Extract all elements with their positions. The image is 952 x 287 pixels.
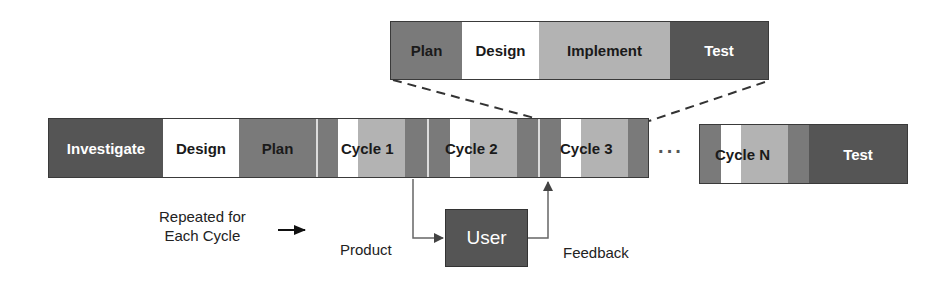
feedback-label: Feedback [563,243,629,262]
zoom-dashed-right [649,82,765,121]
zoom-dashed-left [393,80,538,119]
repeat-note-line2: Each Cycle [159,226,246,245]
repeat-note: Repeated for Each Cycle [159,207,246,245]
product-label: Product [340,240,392,259]
feedback-arrow [528,182,548,238]
product-arrow [413,179,443,238]
user-label: User [466,227,506,249]
user-box: User [445,209,528,267]
repeat-note-line1: Repeated for [159,207,246,226]
